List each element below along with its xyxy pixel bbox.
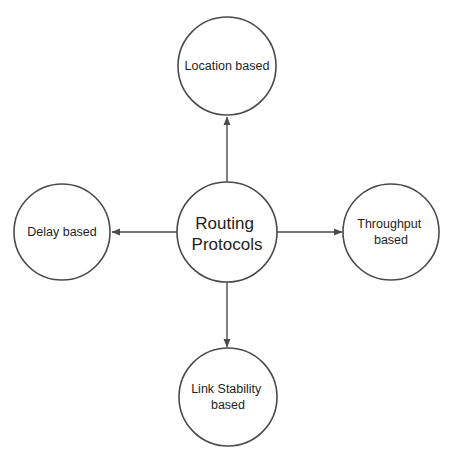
node-routing-protocols-label-line-2: Protocols [192,235,263,254]
node-link-stability-label-line-1: Link Stability [191,382,262,396]
node-location-label: Location based [185,59,270,73]
node-link-stability-label-line-2: based [211,398,245,412]
node-throughput-circle [343,184,439,280]
node-throughput-label-line-2: based [374,233,408,247]
node-link-stability: Link Stability based [179,348,277,446]
node-location: Location based [178,17,276,115]
node-throughput-label-line-1: Throughput [357,217,421,231]
node-delay-label-line-1: Delay based [27,225,97,239]
node-link-stability-circle [179,348,277,446]
routing-protocols-diagram: Location based Routing Protocols Delay b… [0,0,450,457]
node-routing-protocols: Routing Protocols [177,182,277,282]
node-delay: Delay based [14,184,110,280]
node-delay-label: Delay based [27,225,97,239]
node-throughput: Throughput based [343,184,439,280]
node-routing-protocols-label-line-1: Routing [195,214,254,233]
node-location-label-line-1: Location based [185,59,270,73]
